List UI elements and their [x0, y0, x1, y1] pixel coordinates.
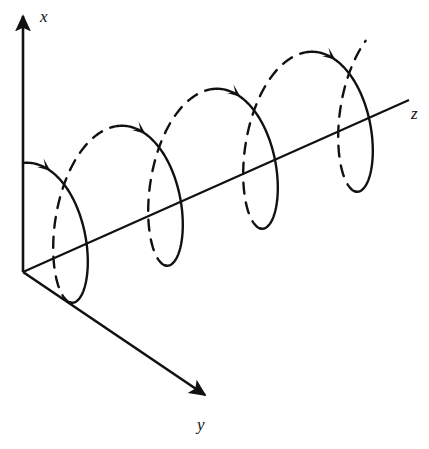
helix-figure: x y z [0, 0, 429, 449]
axis-label-x: x [39, 7, 48, 26]
axis-z-line [23, 100, 409, 272]
axis-label-z: z [410, 104, 418, 123]
axis-label-y: y [195, 415, 205, 434]
helix-curve-group [23, 41, 373, 303]
helix-hidden-segments [53, 41, 365, 303]
helix-svg-canvas: x y z [0, 0, 429, 449]
axis-y-line [23, 272, 205, 395]
helix-visible-segments [23, 52, 373, 303]
axes-group [23, 16, 409, 395]
